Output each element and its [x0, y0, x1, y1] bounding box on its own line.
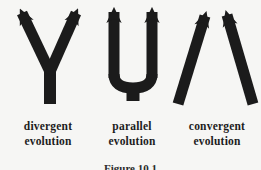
divergent-arrows-icon: [22, 13, 76, 104]
figure-page: { "figure": { "items": [ { "icon": "dive…: [0, 0, 261, 170]
label-line: convergent: [174, 119, 260, 134]
label-line: evolution: [3, 134, 93, 149]
label-line: divergent: [3, 119, 93, 134]
label-convergent-evolution: convergent evolution: [174, 119, 260, 148]
divergent-left-arrow: [22, 13, 51, 74]
label-line: evolution: [89, 134, 175, 149]
convergent-left-arrow: [178, 16, 205, 104]
label-line: evolution: [174, 134, 260, 149]
label-divergent-evolution: divergent evolution: [3, 119, 93, 148]
label-line: parallel: [89, 119, 175, 134]
label-parallel-evolution: parallel evolution: [89, 119, 175, 148]
figure-caption: Figure 10.1: [0, 162, 261, 170]
evolution-figure: divergent evolution parallel evolution c…: [0, 0, 261, 170]
parallel-arrows-icon: [114, 12, 152, 101]
convergent-arrows-icon: [178, 15, 253, 104]
divergent-right-arrow: [49, 13, 76, 74]
convergent-right-arrow: [227, 15, 253, 104]
